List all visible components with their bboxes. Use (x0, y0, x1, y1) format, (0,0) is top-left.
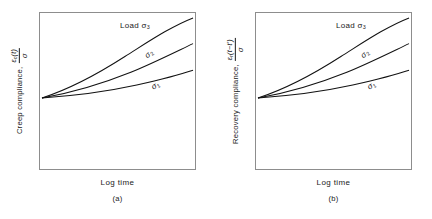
curves-svg-a (40, 13, 195, 169)
chart-panel-b: Recovery compliance, εr(t−t′) σ Load σ3 … (216, 0, 432, 219)
y-axis-label-text-b: Recovery compliance, (231, 64, 240, 144)
epsilon-subscript-b: r (229, 55, 234, 57)
curve-sigma3-b (258, 18, 409, 98)
panel-caption-a: (a) (39, 194, 196, 203)
chart-panel-a: Creep compliance, εc(t) σ Load σ3 σ2 σ1 … (0, 0, 216, 219)
sigma-symbol-b: σ (236, 47, 244, 52)
epsilon-subscript-a: c (13, 56, 18, 59)
plot-frame-a: Load σ3 σ2 σ1 (39, 12, 196, 170)
epsilon-symbol-a: ε (8, 59, 17, 62)
x-axis-label-a: Log time (39, 178, 196, 187)
sigma-symbol-a: σ (20, 53, 28, 58)
epsilon-argument-b: (t−t′) (224, 39, 233, 55)
x-axis-label-b: Log time (255, 178, 412, 187)
y-axis-label-fraction-b: εr(t−t′) σ (225, 38, 243, 61)
y-axis-label-b: Recovery compliance, εr(t−t′) σ (216, 12, 254, 170)
curve-sigma3-a (42, 18, 193, 98)
y-axis-label-a: Creep compliance, εc(t) σ (0, 12, 38, 170)
plot-frame-b: Load σ3 σ2 σ1 (255, 12, 412, 170)
curves-svg-b (256, 13, 411, 169)
y-axis-label-fraction-a: εc(t) σ (9, 48, 27, 64)
epsilon-symbol-b: ε (224, 57, 233, 60)
panel-caption-b: (b) (255, 194, 412, 203)
y-axis-label-text-a: Creep compliance, (15, 67, 24, 135)
curve-label-sigma3-b: Load σ3 (336, 21, 366, 30)
curve-label-sigma3-a: Load σ3 (120, 21, 150, 30)
epsilon-argument-a: (t) (8, 49, 17, 57)
